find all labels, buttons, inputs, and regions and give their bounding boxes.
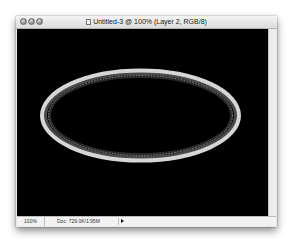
- inner-shadow-ring: [50, 77, 232, 155]
- outer-light-stroke: [42, 71, 239, 161]
- window-title-text: Untitled-3 @ 100% (Layer 2, RGB/8): [93, 18, 207, 25]
- document-info: Doc: 729.0K/1.95M: [57, 217, 100, 226]
- window-title: Untitled-3 @ 100% (Layer 2, RGB/8): [16, 17, 277, 27]
- status-bar: 100% Doc: 729.0K/1.95M: [17, 216, 276, 226]
- vertical-scrollbar[interactable]: [268, 29, 276, 216]
- document-window: Untitled-3 @ 100% (Layer 2, RGB/8) 100% …: [16, 16, 277, 227]
- ellipse-artwork: [17, 29, 268, 216]
- status-menu-arrow-icon[interactable]: [118, 218, 125, 225]
- title-bar[interactable]: Untitled-3 @ 100% (Layer 2, RGB/8): [16, 16, 277, 29]
- zoom-level-field[interactable]: 100%: [17, 217, 45, 226]
- canvas[interactable]: [17, 29, 268, 216]
- inner-dark-ring: [45, 73, 237, 159]
- document-icon: [86, 19, 91, 25]
